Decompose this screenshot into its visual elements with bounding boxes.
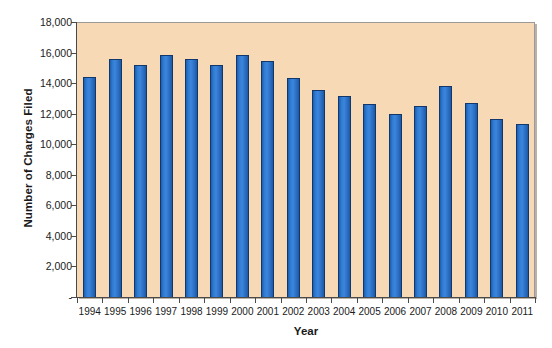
y-axis-tick-label: 8,000 [24, 169, 72, 181]
x-axis-tick-mark [535, 297, 536, 303]
x-axis-tick-mark [179, 297, 180, 303]
bar[interactable] [312, 90, 325, 297]
y-axis-tick-label: - [24, 291, 72, 303]
x-axis-tick-mark [408, 297, 409, 303]
bar[interactable] [210, 65, 223, 297]
x-axis-tick-mark [153, 297, 154, 303]
bar[interactable] [363, 104, 376, 297]
y-axis-tick-mark [71, 22, 77, 23]
x-axis-tick-mark [357, 297, 358, 303]
x-axis-tick-mark [510, 297, 511, 303]
bar[interactable] [465, 103, 478, 297]
x-axis-tick-mark [230, 297, 231, 303]
bar[interactable] [261, 61, 274, 297]
x-axis-tick-mark [281, 297, 282, 303]
y-axis-tick-labels: -2,0004,0006,0008,00010,00012,00014,0001… [24, 0, 72, 348]
bar[interactable] [490, 119, 503, 297]
y-axis-tick-mark [71, 53, 77, 54]
bar[interactable] [134, 65, 147, 297]
bar[interactable] [287, 78, 300, 297]
x-axis-tick-mark [128, 297, 129, 303]
y-axis-tick-label: 4,000 [24, 230, 72, 242]
y-axis-tick-mark [71, 83, 77, 84]
y-axis-tick-label: 12,000 [24, 108, 72, 120]
x-axis-tick-mark [204, 297, 205, 303]
y-axis-tick-label: 16,000 [24, 47, 72, 59]
bar[interactable] [185, 59, 198, 297]
bar-chart: Number of Charges Filed -2,0004,0006,000… [0, 0, 552, 348]
x-axis-tick-label: 2011 [505, 306, 539, 317]
bar[interactable] [160, 55, 173, 297]
y-axis-tick-mark [71, 114, 77, 115]
bar[interactable] [389, 114, 402, 297]
x-axis-title: Year [77, 325, 535, 337]
bar[interactable] [439, 86, 452, 297]
plot-area [77, 22, 535, 297]
y-axis-tick-mark [71, 144, 77, 145]
x-axis-tick-mark [102, 297, 103, 303]
x-axis-tick-mark [331, 297, 332, 303]
x-axis-tick-mark [255, 297, 256, 303]
y-axis-tick-label: 10,000 [24, 138, 72, 150]
x-axis-tick-mark [484, 297, 485, 303]
x-axis-tick-mark [459, 297, 460, 303]
bar[interactable] [83, 77, 96, 297]
bar[interactable] [109, 59, 122, 297]
bar[interactable] [414, 106, 427, 297]
bar[interactable] [236, 55, 249, 297]
y-axis-tick-mark [71, 205, 77, 206]
bar[interactable] [338, 96, 351, 297]
y-axis-tick-mark [71, 236, 77, 237]
y-axis-tick-label: 6,000 [24, 199, 72, 211]
y-axis-tick-mark [71, 266, 77, 267]
x-axis-tick-mark [382, 297, 383, 303]
y-axis-tick-label: 14,000 [24, 77, 72, 89]
bars-layer [77, 23, 534, 297]
y-axis-tick-label: 2,000 [24, 260, 72, 272]
x-axis-tick-mark [433, 297, 434, 303]
x-axis-tick-mark [306, 297, 307, 303]
x-axis-tick-mark [77, 297, 78, 303]
y-axis-tick-label: 18,000 [24, 16, 72, 28]
bar[interactable] [516, 124, 529, 297]
y-axis-tick-mark [71, 175, 77, 176]
